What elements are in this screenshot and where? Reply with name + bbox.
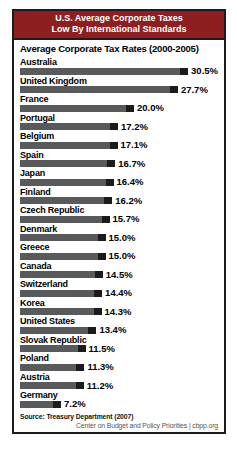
country-label: Poland	[20, 353, 218, 364]
bar	[20, 234, 106, 241]
bar	[20, 290, 102, 297]
bar	[20, 327, 96, 334]
bar-line: 11.5%	[20, 345, 218, 352]
country-label: Belgium	[20, 131, 218, 142]
value-label: 14.4%	[105, 289, 132, 297]
value-label: 15.7%	[113, 215, 140, 223]
value-label: 13.4%	[99, 326, 126, 334]
chart-title-line1: U.S. Average Corporate Taxes	[14, 13, 224, 24]
bar-line: 16.4%	[20, 179, 218, 186]
chart-title-line2: Low By International Standards	[14, 24, 224, 35]
value-label: 11.3%	[87, 363, 113, 371]
bar-row: Switzerland 14.4%	[20, 279, 218, 297]
value-label: 14.3%	[105, 308, 132, 316]
bar-row: Austria 11.2%	[20, 372, 218, 390]
bar	[20, 160, 115, 167]
bar-row: Belgium 17.1%	[20, 131, 218, 149]
chart-panel: U.S. Average Corporate Taxes Low By Inte…	[12, 9, 226, 434]
bar-row: Korea 14.3%	[20, 298, 218, 316]
bar-row: United Kingdom 27.7%	[20, 76, 218, 94]
value-label: 20.0%	[137, 104, 164, 112]
bar-row: Poland 11.3%	[20, 353, 218, 371]
bar	[20, 86, 178, 93]
bar	[20, 401, 61, 408]
country-label: Australia	[20, 57, 218, 68]
bar-line: 15.7%	[20, 216, 218, 223]
value-label: 14.5%	[106, 271, 133, 279]
bar-line: 17.1%	[20, 142, 218, 149]
value-label: 30.5%	[191, 67, 218, 75]
bar-row: Australia 30.5%	[20, 57, 218, 75]
bar-line: 20.0%	[20, 105, 218, 112]
bar	[20, 216, 110, 223]
value-label: 27.7%	[181, 86, 208, 94]
bar	[20, 68, 188, 75]
bar	[20, 308, 102, 315]
bar-line: 14.5%	[20, 271, 218, 278]
bar-chart: Australia 30.5% United Kingdom 27.7% Fra…	[14, 56, 224, 408]
value-label: 16.7%	[118, 160, 145, 168]
bar	[20, 271, 103, 278]
bar	[20, 253, 106, 260]
bar-line: 14.4%	[20, 290, 218, 297]
value-label: 16.2%	[115, 197, 142, 205]
bar-row: Finland 16.2%	[20, 187, 218, 205]
value-label: 16.4%	[117, 178, 144, 186]
bar	[20, 364, 84, 371]
bar-row: Spain 16.7%	[20, 150, 218, 168]
value-label: 15.0%	[109, 234, 136, 242]
bar-row: Czech Republic 15.7%	[20, 205, 218, 223]
bar-row: Canada 14.5%	[20, 261, 218, 279]
value-label: 17.1%	[121, 141, 148, 149]
country-label: Germany	[20, 390, 218, 401]
bar	[20, 197, 112, 204]
chart-title-banner: U.S. Average Corporate Taxes Low By Inte…	[14, 11, 224, 40]
page-background: U.S. Average Corporate Taxes Low By Inte…	[0, 0, 237, 450]
credit-note: Center on Budget and Policy Priorities |…	[20, 422, 218, 429]
bar-line: 11.2%	[20, 382, 218, 389]
bar	[20, 123, 118, 130]
bar-line: 30.5%	[20, 68, 218, 75]
bar-line: 11.3%	[20, 364, 218, 371]
bar-row: Japan 16.4%	[20, 168, 218, 186]
country-label: Portugal	[20, 113, 218, 124]
country-label: Slovak Republic	[20, 335, 218, 346]
bar-line: 15.0%	[20, 253, 218, 260]
country-label: France	[20, 94, 218, 105]
bar	[20, 105, 134, 112]
bar	[20, 382, 84, 389]
chart-subtitle: Average Corporate Tax Rates (2000-2005)	[14, 40, 224, 56]
chart-footer: Source: Treasury Department (2007) Cente…	[14, 409, 224, 429]
value-label: 7.2%	[64, 400, 86, 408]
bar	[20, 142, 118, 149]
bar-line: 7.2%	[20, 401, 218, 408]
country-label: Austria	[20, 372, 218, 383]
bar-row: France 20.0%	[20, 94, 218, 112]
bar-row: Portugal 17.2%	[20, 113, 218, 131]
bar-line: 17.2%	[20, 123, 218, 130]
value-label: 11.5%	[89, 345, 115, 353]
bar-line: 13.4%	[20, 327, 218, 334]
bar-line: 27.7%	[20, 86, 218, 93]
value-label: 11.2%	[87, 382, 113, 390]
bar-line: 14.3%	[20, 308, 218, 315]
bar	[20, 179, 114, 186]
source-note: Source: Treasury Department (2007)	[20, 413, 218, 420]
value-label: 17.2%	[121, 123, 148, 131]
value-label: 15.0%	[109, 252, 136, 260]
bar	[20, 345, 86, 352]
bar-line: 16.2%	[20, 197, 218, 204]
bar-row: Greece 15.0%	[20, 242, 218, 260]
bar-line: 15.0%	[20, 234, 218, 241]
bar-line: 16.7%	[20, 160, 218, 167]
bar-row: Denmark 15.0%	[20, 224, 218, 242]
bar-row: United States 13.4%	[20, 316, 218, 334]
bar-row: Germany 7.2%	[20, 390, 218, 408]
bar-row: Slovak Republic 11.5%	[20, 335, 218, 353]
